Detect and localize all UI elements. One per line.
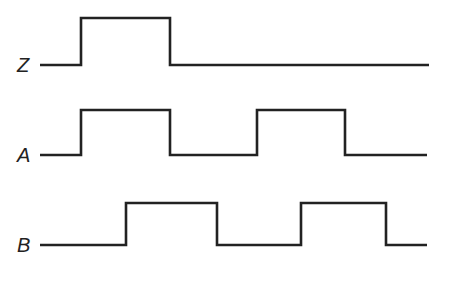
waveform-canvas [0, 0, 452, 283]
signal-a-waveform [40, 110, 427, 155]
signal-b-waveform [40, 203, 427, 245]
signal-z-waveform [40, 18, 429, 65]
signal-z-label: Z [17, 55, 29, 75]
signal-b-label: B [17, 235, 30, 255]
signal-a-label: A [17, 145, 30, 165]
